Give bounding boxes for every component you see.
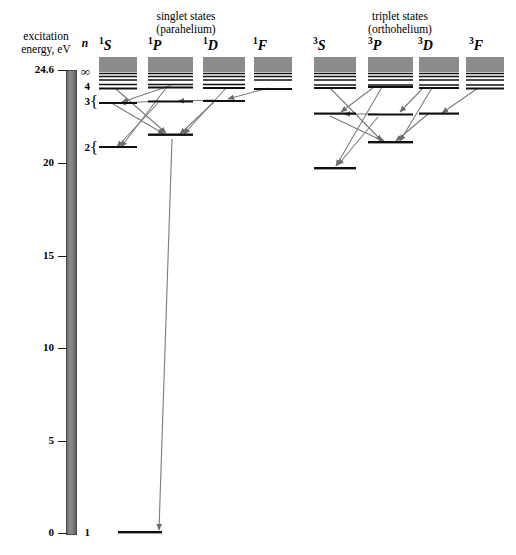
tick-mark-5 [58, 441, 67, 442]
axis-caption: excitation energy, eV [6, 30, 86, 56]
energy-axis-bar [66, 70, 77, 535]
n-label-2: 2 [76, 141, 90, 153]
energy-level-bars [99, 86, 504, 533]
term-label-1D: 1D [203, 36, 218, 54]
transition-arrows-triplet [330, 87, 478, 166]
level-1S-n3 [99, 102, 137, 104]
tick-label-0: 0 [18, 526, 54, 538]
level-3S-n4 [314, 87, 356, 89]
term-label-1F: 1F [253, 36, 267, 54]
term-letter-1P: P [153, 38, 162, 53]
level-3D-n3 [419, 113, 459, 115]
term-label-1S: 1S [99, 36, 112, 54]
level-1S-n4 [99, 88, 137, 90]
level-3P-n4 [368, 86, 413, 88]
term-letter-3D: D [423, 38, 433, 53]
axis-caption-line1: excitation [6, 30, 86, 43]
brace-n2: { [90, 139, 98, 156]
brace-n3: { [90, 93, 98, 110]
tick-label-15: 15 [18, 249, 54, 261]
tick-mark-15 [58, 256, 67, 257]
transition-arrows-singlet [113, 85, 268, 147]
term-letter-1F: F [258, 38, 267, 53]
continuum-1D [203, 57, 245, 72]
n-label-1: 1 [76, 526, 90, 538]
term-label-1P: 1P [148, 36, 161, 54]
singlet-title: singlet states [116, 10, 256, 23]
continuum-1F [254, 57, 292, 72]
level-3P-n2 [368, 141, 413, 143]
triplet-subtitle: (orthohelium) [330, 23, 470, 36]
triplet-title: triplet states [330, 10, 470, 23]
level-1S-n2 [99, 146, 137, 148]
continuum-3P [368, 57, 413, 72]
tick-label-10: 10 [18, 341, 54, 353]
axis-caption-line2: energy, eV [6, 43, 86, 56]
tick-label-5: 5 [18, 434, 54, 446]
n-label-infinity: ∞ [76, 64, 90, 80]
term-letter-3F: F [474, 38, 483, 53]
helium-energy-level-diagram: excitation energy, eV singlet states (pa… [0, 0, 516, 555]
singlet-group-caption: singlet states (parahelium) [116, 10, 256, 36]
level-3S-n3 [314, 113, 356, 115]
level-3D-n4 [419, 87, 459, 89]
continuum-blocks [99, 57, 504, 72]
term-letter-1D: D [208, 38, 218, 53]
term-letter-1S: S [104, 38, 112, 53]
tick-label-24-6: 24.6 [18, 63, 54, 75]
triplet-group-caption: triplet states (orthohelium) [330, 10, 470, 36]
level-1D-n4 [203, 87, 245, 89]
level-1F-n4 [254, 88, 292, 90]
level-3F-n4 [466, 88, 504, 90]
level-1P-n2 [148, 134, 193, 136]
level-3S-n2 [314, 167, 356, 169]
tick-label-20: 20 [18, 156, 54, 168]
n-label-3: 3 [76, 95, 90, 107]
level-1P-n3 [148, 101, 193, 103]
tick-mark-20 [58, 163, 67, 164]
term-label-3S: 3S [313, 36, 326, 54]
n-column-header: n [78, 37, 92, 49]
rydberg-series-lines [99, 74, 504, 86]
tick-mark-24-6 [58, 70, 67, 71]
n-label-4: 4 [76, 80, 90, 92]
level-1P-n4 [148, 87, 193, 89]
continuum-1S [99, 57, 137, 72]
level-3P-n3 [368, 114, 413, 116]
level-1S-n1-ground [118, 531, 162, 533]
term-label-3P: 3P [368, 36, 381, 54]
term-label-3F: 3F [469, 36, 483, 54]
term-label-3D: 3D [418, 36, 433, 54]
continuum-3F [466, 57, 504, 72]
term-letter-3S: S [318, 38, 326, 53]
continuum-3S [314, 57, 356, 72]
tick-mark-0 [58, 533, 67, 534]
tick-mark-10 [58, 348, 67, 349]
level-1D-n3 [203, 100, 245, 102]
term-letter-3P: P [373, 38, 382, 53]
continuum-3D [419, 57, 459, 72]
singlet-subtitle: (parahelium) [116, 23, 256, 36]
continuum-1P [148, 57, 193, 72]
resonance-transition-arrow [159, 139, 172, 530]
